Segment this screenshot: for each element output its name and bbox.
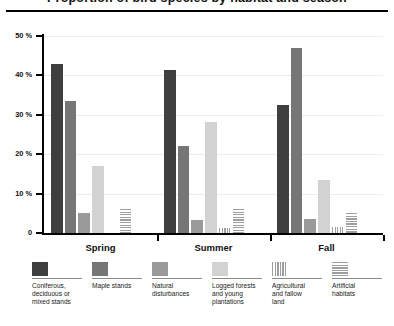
bars-layer [44, 36, 383, 233]
legend-item[interactable]: Coniferous, deciduous or mixed stands [32, 262, 86, 307]
y-axis-tick-label: 30 % [2, 110, 32, 119]
y-axis-tick [36, 193, 42, 195]
legend-rule [92, 278, 142, 279]
bar [332, 227, 344, 233]
y-axis-tick-label: 0 [2, 228, 32, 237]
legend-rule [332, 278, 382, 279]
legend-swatch-icon [332, 262, 348, 276]
legend-swatch-icon [152, 262, 168, 276]
chart-page: Proportion of bird species by habitat an… [0, 0, 394, 326]
x-axis-line [42, 233, 383, 235]
bar [291, 48, 303, 233]
legend-label: Coniferous, deciduous or mixed stands [32, 282, 86, 307]
bar [277, 105, 289, 233]
legend-label: Artificial habitats [332, 282, 386, 298]
bar [164, 70, 176, 234]
legend-label: Agricultural and fallow land [272, 282, 326, 307]
legend-swatch-icon [92, 262, 108, 276]
title-divider [6, 10, 388, 12]
legend-rule [272, 278, 322, 279]
y-axis-tick [36, 74, 42, 76]
bar [233, 209, 245, 233]
bar [304, 219, 316, 233]
bar [191, 220, 203, 233]
group-label-fall: Fall [270, 242, 383, 253]
legend-item[interactable]: Maple stands [92, 262, 146, 290]
legend-swatch-icon [32, 262, 48, 276]
legend-swatch-icon [272, 262, 288, 276]
bar [219, 228, 231, 233]
y-axis-tick [36, 114, 42, 116]
bar [51, 64, 63, 233]
legend-rule [152, 278, 202, 279]
group-separator-tick [270, 235, 272, 241]
y-axis-tick [36, 232, 42, 234]
y-axis-tick [36, 153, 42, 155]
bar [318, 180, 330, 233]
bar [92, 166, 104, 233]
page-title: Proportion of bird species by habitat an… [47, 0, 347, 5]
legend-label: Logged forests and young plantations [212, 282, 266, 307]
bar [120, 209, 132, 233]
y-axis-tick [36, 35, 42, 37]
group-label-summer: Summer [157, 242, 270, 253]
legend-swatch-icon [212, 262, 228, 276]
bar [346, 213, 358, 233]
group-label-spring: Spring [44, 242, 157, 253]
legend-item[interactable]: Logged forests and young plantations [212, 262, 266, 307]
bar [65, 101, 77, 233]
chart-legend: Coniferous, deciduous or mixed standsMap… [0, 262, 394, 326]
bar [178, 146, 190, 233]
y-axis-tick-label: 10 % [2, 189, 32, 198]
y-axis-tick-label: 50 % [2, 31, 32, 40]
legend-item[interactable]: Artificial habitats [332, 262, 386, 298]
bar [78, 213, 90, 233]
legend-rule [212, 278, 262, 279]
y-axis-tick-label: 40 % [2, 70, 32, 79]
y-axis-tick-label: 20 % [2, 149, 32, 158]
legend-rule [32, 278, 82, 279]
chart-title-strip: Proportion of bird species by habitat an… [0, 0, 394, 9]
group-separator-tick [157, 235, 159, 241]
group-separator-tick [383, 235, 385, 241]
legend-item[interactable]: Agricultural and fallow land [272, 262, 326, 307]
legend-item[interactable]: Natural disturbances [152, 262, 206, 298]
legend-label: Maple stands [92, 282, 146, 290]
bar [205, 122, 217, 234]
legend-label: Natural disturbances [152, 282, 206, 298]
